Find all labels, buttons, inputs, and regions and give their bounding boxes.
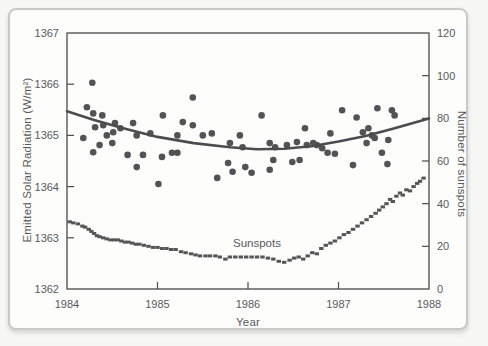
scatter-point: [371, 135, 378, 142]
scatter-point: [190, 122, 197, 129]
sunspot-marker: [351, 228, 355, 231]
scatter-point: [384, 161, 391, 168]
sunspot-marker: [369, 215, 373, 218]
sunspot-marker: [360, 221, 364, 224]
sunspot-marker: [292, 257, 296, 260]
y-right-tick-label: 40: [437, 198, 449, 210]
scatter-point: [90, 149, 97, 156]
scatter-point: [258, 112, 265, 119]
scatter-point: [140, 152, 147, 159]
sunspot-marker: [142, 244, 146, 247]
scatter-point: [92, 124, 99, 131]
sunspot-marker: [287, 259, 291, 262]
x-tick-label: 1987: [326, 298, 350, 310]
sunspot-marker: [301, 258, 305, 261]
scatter-point: [266, 166, 273, 173]
sunspot-marker: [282, 261, 286, 264]
sunspot-marker: [306, 254, 310, 257]
x-tick-label: 1986: [236, 298, 260, 310]
sunspot-marker: [297, 256, 301, 259]
scatter-point: [302, 125, 309, 132]
y-right-tick-label: 120: [437, 27, 455, 39]
scatter-point: [353, 114, 360, 121]
scatter-point: [99, 112, 106, 119]
scatter-point: [110, 129, 117, 136]
sunspot-marker: [169, 248, 173, 251]
sunspot-marker: [342, 233, 346, 236]
sunspot-marker: [193, 253, 197, 256]
scatter-point: [90, 110, 97, 117]
sunspot-marker: [266, 257, 270, 260]
scatter-point: [104, 132, 111, 139]
sunspot-marker: [381, 205, 385, 208]
scatter-point: [385, 137, 392, 144]
scatter-point: [190, 94, 197, 101]
scatter-point: [130, 120, 137, 127]
sunspot-marker: [173, 248, 177, 251]
sunspot-marker: [233, 256, 237, 259]
x-tick-label: 1988: [417, 298, 441, 310]
sunspot-marker: [319, 247, 323, 250]
sunspot-marker: [160, 247, 164, 250]
scatter-point: [270, 157, 277, 164]
scatter-point: [324, 150, 331, 157]
scatter-point: [214, 175, 221, 182]
y-right-tick-label: 20: [437, 240, 449, 252]
scatter-point: [200, 132, 207, 139]
y-right-tick-label: 80: [437, 112, 449, 124]
x-tick-label: 1984: [55, 298, 79, 310]
sunspot-marker: [244, 256, 248, 259]
sunspot-marker: [310, 251, 314, 254]
scatter-point: [296, 157, 303, 164]
scatter-point: [248, 170, 255, 177]
sunspot-marker: [223, 258, 227, 261]
sunspot-marker: [203, 254, 207, 257]
sunspot-marker: [377, 209, 381, 212]
y-left-tick-label: 1363: [35, 232, 59, 244]
y-right-tick-label: 100: [437, 70, 455, 82]
scatter-point: [124, 152, 131, 159]
scatter-point: [174, 150, 181, 157]
sunspot-marker: [401, 194, 405, 197]
sunspot-marker: [76, 222, 80, 225]
scatter-point: [225, 160, 232, 167]
y-right-tick-label: 0: [437, 283, 443, 295]
scatter-point: [80, 135, 87, 142]
sunspot-marker: [394, 195, 398, 198]
x-tick-label: 1985: [145, 298, 169, 310]
y-axis-label-left: Emitted Solar Radiation (W/m²): [19, 10, 35, 310]
sunspot-marker: [328, 242, 332, 245]
sunspots-series-label: Sunspots: [225, 237, 289, 251]
scatter-point: [109, 140, 116, 147]
scatter-point: [159, 154, 166, 161]
scatter-point: [360, 129, 367, 136]
sunspot-marker: [384, 202, 388, 205]
scatter-point: [327, 130, 334, 137]
sunspot-marker: [411, 185, 415, 188]
sunspot-marker: [146, 245, 150, 248]
scatter-point: [339, 107, 346, 114]
sunspot-marker: [137, 243, 141, 246]
sunspot-marker: [271, 258, 275, 261]
sunspot-marker: [333, 240, 337, 243]
sunspot-marker: [408, 189, 412, 192]
sunspot-marker: [249, 256, 253, 259]
y-left-tick-label: 1362: [35, 283, 59, 295]
sunspot-marker: [155, 246, 159, 249]
sunspot-marker: [189, 252, 193, 255]
sunspot-marker: [315, 252, 319, 255]
scatter-point: [350, 162, 357, 169]
scatter-point: [180, 119, 187, 126]
sunspot-marker: [183, 251, 187, 254]
scatter-point: [374, 105, 381, 112]
chart-canvas: 1362136313641365136613670204060801001201…: [0, 0, 488, 346]
sunspot-marker: [355, 225, 359, 228]
sunspot-marker: [208, 254, 212, 257]
sunspot-marker: [324, 244, 328, 247]
sunspot-marker: [71, 221, 75, 224]
scatter-point: [379, 150, 386, 157]
scatter-point: [289, 159, 296, 166]
sunspot-marker: [213, 254, 217, 257]
scatter-point: [133, 164, 140, 171]
y-left-tick-label: 1365: [35, 129, 59, 141]
